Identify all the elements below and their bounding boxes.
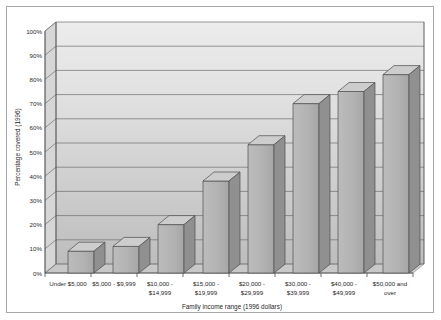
- y-tick-60: 60%: [30, 124, 43, 131]
- cat-label-2-line1: $14,999: [149, 289, 172, 296]
- cat-label-3-line0: $15,000 -: [193, 280, 219, 287]
- bar-40000-49999[interactable]: [338, 83, 375, 274]
- y-tick-40: 40%: [30, 173, 43, 180]
- y-tick-70: 70%: [30, 100, 43, 107]
- cat-label-4-line1: $29,999: [241, 289, 264, 296]
- y-axis-title: Percentage covered (1996): [14, 108, 22, 185]
- bar-50000-and-over[interactable]: [383, 66, 420, 273]
- y-tick-0: 0%: [33, 270, 42, 277]
- y-tick-10: 10%: [30, 245, 43, 252]
- cat-label-3-line1: $19,999: [195, 289, 218, 296]
- y-axis-tick-labels: 100% 90% 80% 70% 60% 50% 40% 30% 20% 10%…: [26, 28, 42, 277]
- bar-30000-39999[interactable]: [293, 95, 330, 273]
- y-tick-80: 80%: [30, 76, 43, 83]
- chart-root: 100% 90% 80% 70% 60% 50% 40% 30% 20% 10%…: [0, 0, 441, 320]
- bar-10000-14999[interactable]: [158, 216, 195, 273]
- x-axis-ticks: [45, 273, 413, 277]
- cat-label-4-line0: $20,000 -: [239, 280, 265, 287]
- bar-under-5000[interactable]: [68, 242, 105, 273]
- cat-label-7-line1: over: [384, 289, 396, 296]
- cat-label-2-line0: $10,000 -: [147, 280, 173, 287]
- y-tick-50: 50%: [30, 149, 43, 156]
- cat-label-6-line1: $49,999: [333, 289, 356, 296]
- y-tick-100: 100%: [26, 28, 42, 35]
- cat-label-7-line0: $50,000 and: [373, 280, 408, 287]
- cat-label-6-line0: $40,000 -: [331, 280, 357, 287]
- bar-5000-9999[interactable]: [113, 237, 150, 273]
- cat-label-0-line0: Under $5,000: [49, 280, 87, 287]
- x-axis-title: Family income range (1996 dollars): [182, 303, 282, 311]
- cat-label-5-line1: $39,999: [287, 289, 310, 296]
- bar-20000-29999[interactable]: [248, 136, 285, 273]
- cat-label-5-line0: $30,000 -: [285, 280, 311, 287]
- bar-chart-canvas: 100% 90% 80% 70% 60% 50% 40% 30% 20% 10%…: [0, 0, 441, 320]
- y-tick-30: 30%: [30, 197, 43, 204]
- y-tick-90: 90%: [30, 52, 43, 59]
- x-axis-category-labels: Under $5,000 $5,000 - $9,999 $10,000 - $…: [49, 280, 408, 296]
- cat-label-1-line0: $5,000 - $9,999: [92, 280, 136, 287]
- y-tick-20: 20%: [30, 221, 43, 228]
- bar-15000-19999[interactable]: [203, 172, 240, 273]
